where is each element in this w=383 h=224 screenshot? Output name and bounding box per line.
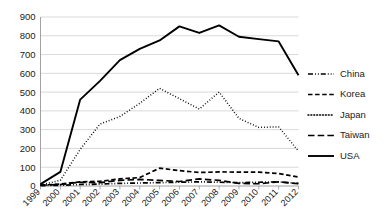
line-chart: 9008007006005004003002001000 19992000200… — [0, 0, 383, 224]
y-tick-label: 800 — [20, 30, 36, 41]
y-tick-label: 400 — [20, 105, 36, 116]
legend-label-korea: Korea — [340, 88, 366, 99]
y-tick-label: 300 — [20, 124, 36, 135]
x-tick-label: 2000 — [41, 187, 62, 208]
x-tick-label: 2003 — [100, 187, 121, 208]
x-tick-label: 2001 — [60, 187, 81, 208]
x-axis-tick-labels: 1999200020012002200320042005200620072008… — [21, 187, 300, 208]
x-axis — [41, 186, 299, 190]
x-tick-label: 1999 — [21, 187, 42, 208]
x-tick-label: 2010 — [239, 187, 260, 208]
chart-canvas: 9008007006005004003002001000 19992000200… — [0, 0, 383, 224]
series-line-usa — [41, 25, 299, 184]
legend-label-china: China — [340, 68, 366, 79]
legend-label-usa: USA — [340, 150, 360, 161]
y-tick-label: 900 — [20, 11, 36, 22]
series-lines — [41, 25, 299, 185]
y-tick-label: 100 — [20, 162, 36, 173]
x-tick-label: 2008 — [199, 187, 220, 208]
y-tick-label: 200 — [20, 143, 36, 154]
x-tick-label: 2012 — [279, 187, 300, 208]
y-tick-label: 600 — [20, 68, 36, 79]
legend-label-taiwan: Taiwan — [340, 129, 370, 140]
x-tick-label: 2004 — [120, 187, 141, 208]
legend-label-japan: Japan — [340, 109, 366, 120]
x-tick-label: 2011 — [259, 187, 280, 208]
y-tick-label: 700 — [20, 49, 36, 60]
x-tick-label: 2007 — [179, 187, 200, 208]
x-tick-label: 2002 — [80, 187, 101, 208]
chart-legend: ChinaKoreaJapanTaiwanUSA — [308, 68, 370, 161]
x-tick-label: 2006 — [160, 187, 181, 208]
x-tick-label: 2009 — [219, 187, 240, 208]
y-axis-tick-labels: 9008007006005004003002001000 — [20, 11, 36, 191]
y-tick-label: 500 — [20, 87, 36, 98]
x-tick-label: 2005 — [140, 187, 161, 208]
